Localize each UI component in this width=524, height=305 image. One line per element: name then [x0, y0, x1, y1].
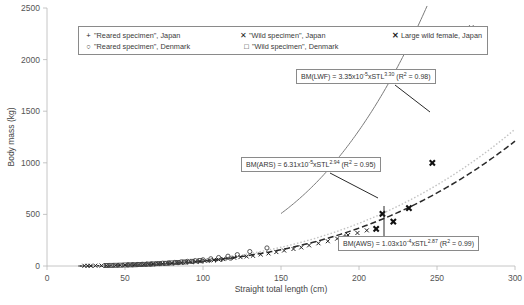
series--wild-specimen-japan — [82, 228, 368, 267]
y-axis-title: Body mass (kg) — [6, 107, 16, 166]
x-tick-label: 0 — [45, 273, 50, 283]
legend-row-2: ○ "Reared specimen", Denmark □ "Wild spe… — [84, 41, 482, 52]
data-point — [374, 226, 379, 231]
equation-annotation-ars: BM(ARS) = 6.31x10-5xSTL2.94 (R2 = 0.95) — [241, 157, 381, 172]
data-point — [235, 253, 239, 257]
data-point — [282, 249, 286, 253]
legend-label: "Wild specimen", Denmark — [252, 41, 338, 52]
legend-row-1: + "Reared specimen", Japan ✕ "Wild speci… — [84, 30, 482, 41]
data-point — [355, 231, 359, 235]
equation-annotation-lwf: BM(LWF) = 3.35x10-5xSTL3.30 (R2 = 0.98) — [296, 69, 436, 84]
plus-marker-icon: + — [84, 30, 93, 41]
y-tick-label: 1000 — [21, 158, 40, 168]
y-tick-label: 1500 — [21, 106, 40, 116]
legend-label: "Reared specimen", Japan — [94, 30, 180, 41]
legend-item-wild-denmark: □ "Wild specimen", Denmark — [242, 41, 397, 52]
legend-label: Large wild female, Japan — [401, 30, 482, 41]
legend-item-reared-denmark: ○ "Reared specimen", Denmark — [84, 41, 242, 52]
legend-item-large-wild-female-japan: ✕ Large wild female, Japan — [391, 30, 482, 41]
legend-item-wild-japan: ✕ "Wild specimen", Japan — [239, 30, 391, 41]
legend-item-reared-japan: + "Reared specimen", Japan — [84, 30, 239, 41]
data-point — [299, 245, 303, 249]
chart-legend: + "Reared specimen", Japan ✕ "Wild speci… — [78, 26, 488, 55]
x-tick-label: 100 — [196, 273, 210, 283]
data-point — [365, 228, 369, 232]
data-point — [316, 241, 320, 245]
x-tick-label: 150 — [274, 273, 288, 283]
data-point — [430, 160, 435, 165]
data-point — [391, 219, 396, 224]
x-bold-marker-icon: ✕ — [391, 30, 400, 41]
annotation-leader-line-0 — [395, 85, 430, 112]
data-point — [307, 243, 311, 247]
x-tick-label: 50 — [120, 273, 130, 283]
legend-label: "Reared specimen", Denmark — [94, 41, 190, 52]
legend-label: "Wild specimen", Japan — [249, 30, 326, 41]
y-tick-label: 2000 — [21, 55, 40, 65]
data-point — [265, 246, 269, 250]
circle-marker-icon: ○ — [84, 41, 93, 52]
data-point — [326, 239, 330, 243]
equation-annotation-aws: BM(AWS) = 1.03x10-4xSTL2.87 (R2 = 0.99) — [338, 236, 479, 251]
y-tick-label: 0 — [35, 261, 40, 271]
figure-container: 05001000150020002500050100150200250300St… — [0, 0, 524, 305]
x-tick-label: 300 — [508, 273, 522, 283]
y-tick-label: 500 — [26, 209, 40, 219]
square-marker-icon: □ — [242, 41, 251, 52]
x-axis-title: Straight total length (cm) — [235, 284, 328, 294]
annotation-leader-line-1 — [330, 173, 378, 198]
x-marker-icon: ✕ — [239, 30, 248, 41]
y-tick-label: 2500 — [21, 3, 40, 13]
figure-caption — [6, 299, 518, 305]
x-tick-label: 200 — [352, 273, 366, 283]
x-tick-label: 250 — [430, 273, 444, 283]
